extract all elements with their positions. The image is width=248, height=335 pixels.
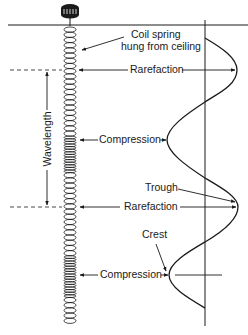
compression-label-2: Compression	[100, 269, 162, 280]
trough-label: Trough	[145, 182, 178, 193]
rarefaction-label-2: Rarefaction	[124, 201, 178, 212]
rarefaction-label-1: Rarefaction	[130, 64, 184, 75]
crest-arrow	[156, 244, 166, 271]
coil-spring	[64, 27, 76, 323]
displacement-wave	[167, 38, 238, 308]
compression-label-1: Compression	[99, 134, 161, 145]
coil-spring-arrow	[82, 37, 124, 50]
crest-label: Crest	[142, 229, 167, 240]
wavelength-label: Wavelength	[41, 109, 53, 169]
ceiling-hook-icon	[61, 4, 79, 26]
coil-spring-label-line1: Coil spring	[131, 29, 181, 40]
coil-spring-label-line2: hung from ceiling	[121, 41, 201, 52]
